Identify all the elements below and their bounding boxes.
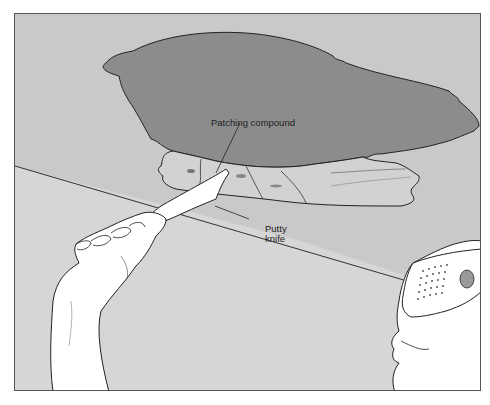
ceiling-repair-illustration <box>15 14 481 391</box>
goggle-strap-clip <box>460 270 474 288</box>
label-patching-compound: Patching compound <box>211 118 295 128</box>
illustration-frame: Patching compound Putty knife <box>14 13 481 391</box>
label-putty-knife: Putty knife <box>265 224 305 244</box>
